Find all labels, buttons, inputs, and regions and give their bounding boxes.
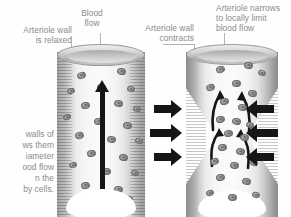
label-arteriole-contracts: Arteriole wall contracts xyxy=(118,23,194,43)
pressure-arrow-right-1 xyxy=(246,100,274,118)
vessel-cut-rim-top xyxy=(57,44,145,66)
pressure-arrow-right-3 xyxy=(246,148,274,166)
vessel-wall-right-edge xyxy=(130,52,145,217)
vessel-wall-left-edge xyxy=(57,52,72,217)
label-arteriole-narrows: Arteriole narrows to locally limit blood… xyxy=(216,3,291,34)
label-blood-flow: Blood flow xyxy=(68,8,116,28)
pressure-arrow-right-2 xyxy=(246,124,278,142)
pressure-arrow-left-1 xyxy=(154,100,182,118)
pressure-arrow-left-2 xyxy=(150,124,182,142)
figure-canvas: Arteriole wall is relaxed Blood flow Art… xyxy=(0,0,291,217)
arteriole-relaxed-illustration xyxy=(57,44,145,217)
pressure-arrow-left-3 xyxy=(154,148,182,166)
label-arteriole-relaxed: Arteriole wall is relaxed xyxy=(0,25,72,45)
vessel-cut-rim-inner xyxy=(67,50,137,63)
body-text-block: walls of ws them iameter ood flow n the … xyxy=(0,129,54,195)
